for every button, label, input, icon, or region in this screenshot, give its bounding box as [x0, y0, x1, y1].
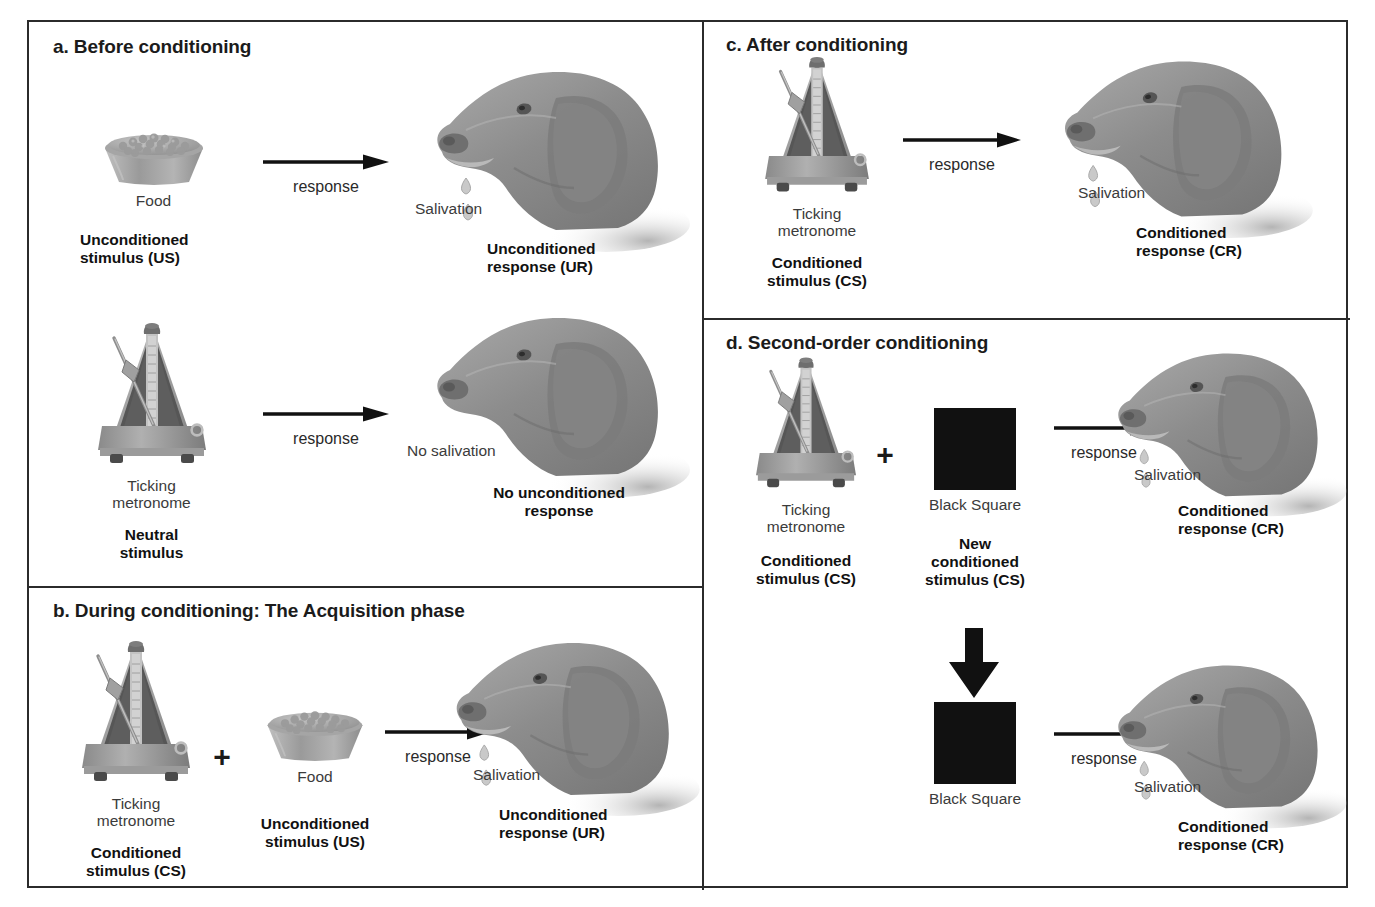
stimulus-metronome-c-label-line2: metronome [742, 222, 892, 239]
stimulus-b-role-line1: Conditioned [61, 844, 211, 862]
metronome-icon [61, 640, 211, 792]
stimulus-food: Food Unconditioned stimulus (US) [76, 126, 231, 267]
stimulus-d-role-line1: Conditioned [736, 552, 876, 570]
metronome-icon [736, 356, 876, 498]
stimulus-d2-role-line2: conditioned [900, 553, 1050, 571]
stimulus-d2-role-line3: stimulus (CS) [900, 571, 1050, 589]
stimulus-food-b-label: Food [235, 768, 395, 785]
metronome-icon [742, 56, 892, 202]
response-salivation-c-label: Salivation [1078, 184, 1145, 201]
response-no-salivation-a2: No salivation No unconditioned response [401, 292, 701, 500]
arrow-down-d [924, 628, 1024, 700]
stimulus-a2-role-line1: Neutral [69, 526, 234, 544]
panel-a-row-1: Food Unconditioned stimulus (US) respons… [29, 94, 704, 314]
panel-d-row-2: Black Square response [704, 702, 1350, 892]
stimulus-b2-role-line2: stimulus (US) [235, 833, 395, 851]
stimulus-metronome-a2-label-line1: Ticking [69, 477, 234, 494]
stimulus-metronome-c: Ticking metronome Conditioned stimulus (… [742, 56, 892, 289]
stimulus-food-label: Food [76, 192, 231, 209]
classical-conditioning-figure: a. Before conditioning [27, 20, 1348, 888]
response-d1-role-line1: Conditioned [1178, 502, 1284, 520]
panel-b-row-1: Ticking metronome Conditioned stimulus (… [29, 640, 704, 890]
saliva-drop-icon [1088, 165, 1097, 181]
stimulus-metronome-a2: Ticking metronome Neutral stimulus [69, 322, 234, 561]
arrow-right-icon [892, 132, 1032, 148]
stimulus-black-square-d1-label: Black Square [900, 496, 1050, 513]
stimulus-metronome-b: Ticking metronome Conditioned stimulus (… [61, 640, 211, 879]
stimulus-metronome-a2-label-line2: metronome [69, 494, 234, 511]
response-a2-role-line1: No unconditioned [459, 484, 659, 502]
dog-head-icon [1026, 36, 1326, 240]
response-salivation-c: Salivation Conditioned response (CR) [1026, 36, 1326, 240]
saliva-drop-icon [1140, 761, 1148, 775]
stimulus-d-role-line2: stimulus (CS) [736, 570, 876, 588]
response-salivation-d1-label: Salivation [1134, 466, 1201, 483]
panel-b-title: b. During conditioning: The Acquisition … [53, 600, 465, 622]
plus-icon: + [868, 440, 902, 470]
stimulus-metronome-d-label-line1: Ticking [736, 501, 876, 518]
stimulus-black-square-d2: Black Square [900, 702, 1050, 807]
response-b-role-line2: response (UR) [499, 824, 608, 842]
response-d2-role-line2: response (CR) [1178, 836, 1284, 854]
response-a2-role-line2: response [459, 502, 659, 520]
panel-c-row-1: Ticking metronome Conditioned stimulus (… [704, 56, 1350, 316]
stimulus-a2-role-line2: stimulus [69, 544, 234, 562]
metronome-icon [69, 322, 234, 474]
stimulus-metronome-c-label-line1: Ticking [742, 205, 892, 222]
response-d2-role-line1: Conditioned [1178, 818, 1284, 836]
stimulus-food-role-line1: Unconditioned [80, 231, 231, 249]
stimulus-b-role-line2: stimulus (CS) [61, 862, 211, 880]
response-salivation-d2-label: Salivation [1134, 778, 1201, 795]
stimulus-metronome-d-label-line2: metronome [736, 518, 876, 535]
panel-before-conditioning: a. Before conditioning [29, 22, 704, 588]
stimulus-c-role-line1: Conditioned [742, 254, 892, 272]
stimulus-b2-role-line1: Unconditioned [235, 815, 395, 833]
arrow-c-label: response [892, 156, 1032, 174]
dog-head-icon [1086, 642, 1356, 830]
arrow-a2-label: response [251, 430, 401, 448]
food-bowl-icon [76, 126, 231, 188]
arrow-a1-label: response [251, 178, 401, 196]
saliva-drop-icon [462, 178, 471, 194]
panel-second-order-conditioning: d. Second-order conditioning [704, 320, 1350, 890]
dog-head-icon [1086, 330, 1356, 518]
black-square-icon [934, 702, 1016, 784]
response-a1-role-line1: Unconditioned [487, 240, 596, 258]
food-bowl-icon [235, 704, 395, 764]
panel-c-title: c. After conditioning [726, 34, 908, 56]
arrow-right-icon [251, 154, 401, 170]
stimulus-metronome-b-label-line1: Ticking [61, 795, 211, 812]
black-square-icon [934, 408, 1016, 490]
response-c-role-line2: response (CR) [1136, 242, 1242, 260]
arrow-c: response [892, 132, 1032, 174]
panel-d-title: d. Second-order conditioning [726, 332, 988, 354]
arrow-a2: response [251, 406, 401, 448]
response-salivation-d1: Salivation Conditioned response (CR) [1086, 330, 1356, 518]
response-salivation-a1-label: Salivation [415, 200, 482, 217]
response-salivation-a1: Salivation Unconditioned response (UR) [401, 46, 701, 254]
response-a1-role-line2: response (UR) [487, 258, 596, 276]
panel-d-row-1: Ticking metronome Conditioned stimulus (… [704, 356, 1350, 626]
dog-head-icon [401, 46, 701, 254]
response-salivation-d2: Salivation Conditioned response (CR) [1086, 642, 1356, 830]
response-salivation-b: Salivation Unconditioned response (UR) [421, 618, 711, 818]
stimulus-c-role-line2: stimulus (CS) [742, 272, 892, 290]
stimulus-d2-role-line1: New [900, 535, 1050, 553]
arrow-right-icon [251, 406, 401, 422]
plus-icon: + [205, 742, 239, 772]
response-b-role-line1: Unconditioned [499, 806, 608, 824]
response-d1-role-line2: response (CR) [1178, 520, 1284, 538]
stimulus-food-b: Food Unconditioned stimulus (US) [235, 704, 395, 851]
stimulus-black-square-d2-label: Black Square [900, 790, 1050, 807]
panel-a-row-2: Ticking metronome Neutral stimulus respo… [29, 322, 704, 582]
arrow-down-icon [924, 628, 1024, 700]
response-no-salivation-a2-label: No salivation [407, 442, 496, 459]
stimulus-black-square-d1: Black Square New conditioned stimulus (C… [900, 408, 1050, 589]
response-salivation-b-label: Salivation [473, 766, 540, 783]
panel-after-conditioning: c. After conditioning [704, 22, 1350, 320]
arrow-a1: response [251, 154, 401, 196]
saliva-drop-icon [480, 745, 489, 760]
stimulus-food-role-line2: stimulus (US) [80, 249, 231, 267]
panel-during-conditioning: b. During conditioning: The Acquisition … [29, 588, 704, 890]
panel-a-title: a. Before conditioning [53, 36, 251, 58]
